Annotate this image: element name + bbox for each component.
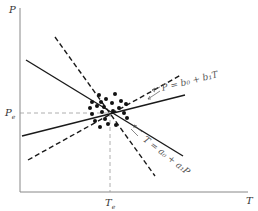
- x-axis-label: T: [246, 196, 253, 206]
- pe-label-sub: e: [12, 113, 16, 120]
- line-p-on-t: [22, 95, 185, 136]
- te-label: Te: [105, 198, 115, 210]
- y-axis-label: P: [9, 5, 16, 15]
- pe-label: Pe: [5, 108, 15, 120]
- regression-diagram: [0, 0, 258, 211]
- label-arrows: [131, 87, 160, 136]
- pe-label-main: P: [5, 107, 12, 118]
- te-label-sub: e: [112, 203, 116, 210]
- te-label-main: T: [105, 197, 112, 208]
